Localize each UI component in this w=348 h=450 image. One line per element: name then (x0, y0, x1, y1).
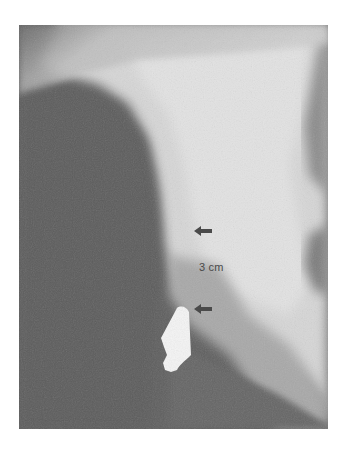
xray-content (19, 25, 328, 429)
upper-arrow-icon (194, 226, 212, 236)
measurement-label: 3 cm (199, 261, 224, 273)
lower-arrow-icon (194, 304, 212, 314)
radiograph-image: 3 cm (19, 25, 328, 429)
